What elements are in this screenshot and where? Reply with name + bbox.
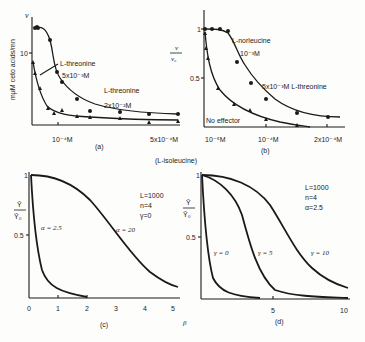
panel-a-annotation-arrow xyxy=(40,64,58,75)
panel-b: v v₀ 1 0.5 10⁻⁵M 10⁻⁴M 2x10⁻⁴M (b) L-nor… xyxy=(170,10,345,155)
panel-d-ylabel-den: Ȳ₀ xyxy=(183,211,191,218)
panel-b-xtick-label-3: 2x10⁻⁴M xyxy=(314,136,342,143)
panel-a-caption: (a) xyxy=(95,143,104,151)
panel-c-param-gamma: γ=0 xyxy=(140,212,152,220)
panel-b-annot-2: 10⁻³M xyxy=(240,50,260,57)
panel-c-param-L: L=1000 xyxy=(140,192,164,199)
panel-d-curve-gamma-5 xyxy=(202,175,348,298)
panel-d-curve-gamma-10 xyxy=(202,175,348,288)
panel-d-param-L: L=1000 xyxy=(305,184,329,191)
figure-canvas: v 10 mμM ceto acids/mn 10⁻⁴M 5x10⁻⁴M (a)… xyxy=(0,0,365,342)
panel-a-ytick-label: 10 xyxy=(20,50,28,57)
panel-d-ytick-label-05: 0.5 xyxy=(186,234,196,241)
panel-b-y-symbol-den: v₀ xyxy=(171,55,177,63)
panel-b-ytick-label-05: 0.5 xyxy=(190,75,200,82)
panel-d-ytick-label-1: 1 xyxy=(196,172,200,179)
panel-a-xtick-label-2: 5x10⁻⁴M xyxy=(150,136,178,143)
panel-b-annot-3: 5x10⁻³M L-threonine xyxy=(262,83,327,90)
panel-b-curve-no-effector xyxy=(205,32,310,127)
panel-c-ytick-label-05: 0.5 xyxy=(14,232,24,239)
panel-a-y-symbol: v xyxy=(25,11,29,20)
panel-d-xtick-label-5: 5 xyxy=(271,307,275,314)
svg-text:0: 0 xyxy=(27,305,31,312)
panel-b-annot-4: No effector xyxy=(206,117,241,124)
panel-b-y-symbol-num: v xyxy=(175,44,179,52)
shared-xlabel-beta: β xyxy=(182,319,187,327)
panel-b-caption: (b) xyxy=(261,147,270,155)
panel-a-annot-3: L-threonine xyxy=(104,87,140,94)
panel-a-annot-1: L-threonine xyxy=(60,60,96,67)
panel-c-ytick-label-1: 1 xyxy=(24,172,28,179)
panel-c-curve-alpha-2.5 xyxy=(31,175,87,297)
panel-a-ylabel: mμM ceto acids/mn xyxy=(9,39,17,100)
panel-b-curve-norleucine xyxy=(205,29,340,117)
svg-text:5: 5 xyxy=(171,305,175,312)
panel-d-xtick-label-10: 10 xyxy=(340,307,348,314)
panel-d-ylabel-num: Ȳ xyxy=(186,199,191,206)
svg-text:2: 2 xyxy=(85,305,89,312)
panel-b-xtick-label-2: 10⁻⁴M xyxy=(258,136,279,143)
svg-text:1: 1 xyxy=(56,305,60,312)
panel-d-caption: (d) xyxy=(275,318,284,326)
panel-a: v 10 mμM ceto acids/mn 10⁻⁴M 5x10⁻⁴M (a)… xyxy=(9,11,180,151)
panel-c-param-n: n=4 xyxy=(140,202,152,209)
panel-d-param-n: n=4 xyxy=(305,194,317,201)
panel-d: 1 0.5 Ȳ Ȳ₀ 5 10 (d) γ = 0 γ = 5 γ = 10 L… xyxy=(183,172,350,326)
svg-text:3: 3 xyxy=(114,305,118,312)
panel-a-annot-2: 5x10⁻³M xyxy=(62,72,90,79)
panel-b-xtick-label-1: 10⁻⁵M xyxy=(205,136,226,143)
panel-c-xtick-labels: 0 1 2 3 4 5 xyxy=(27,305,175,312)
panel-c-caption: (c) xyxy=(100,321,108,329)
panel-c-ylabel-den: Ȳ₀ xyxy=(14,213,22,220)
panel-d-label-gamma-5: γ = 5 xyxy=(258,249,273,257)
panel-c-ylabel-num: Ȳ xyxy=(17,201,22,208)
panel-b-ytick-label-1: 1 xyxy=(197,26,201,33)
panel-a-annot-4: 2x10⁻²M xyxy=(104,102,132,109)
panel-d-label-gamma-0: γ = 0 xyxy=(214,249,229,257)
svg-text:4: 4 xyxy=(143,305,147,312)
center-label-isoleucine: (L-isoleucine) xyxy=(155,157,197,165)
panel-a-xtick-label-1: 10⁻⁴M xyxy=(52,136,73,143)
panel-c-label-alpha-2.5: α = 2.5 xyxy=(41,224,62,232)
panel-d-param-alpha: α=2.5 xyxy=(305,204,323,211)
panel-d-label-gamma-10: γ = 10 xyxy=(311,249,329,257)
panel-b-annot-1: L-norleucine xyxy=(232,37,271,44)
panel-c-label-alpha-20: α = 20 xyxy=(116,226,135,234)
panel-c: 1 0.5 Ȳ Ȳ₀ 0 1 2 3 4 5 (c) α = 2.5 α = 2… xyxy=(14,172,180,329)
